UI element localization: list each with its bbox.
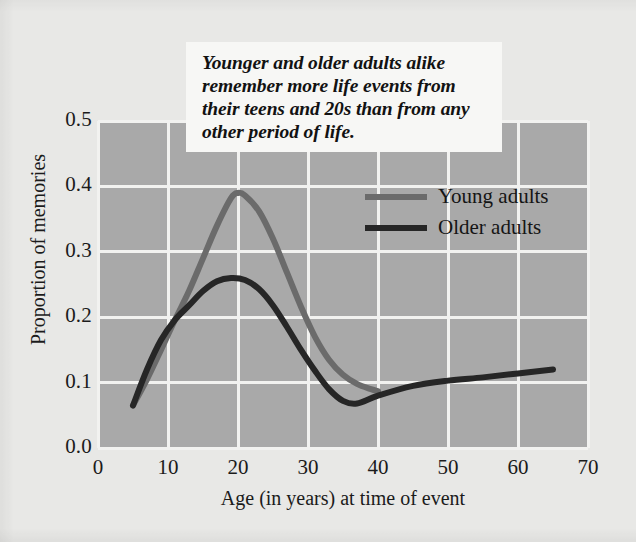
caption-text: Younger and older adults alike remember … xyxy=(202,51,488,143)
x-tick-label: 10 xyxy=(148,455,188,480)
x-axis-label: Age (in years) at time of event xyxy=(98,487,588,510)
x-tick-label: 40 xyxy=(358,455,398,480)
series-line-young-adults xyxy=(133,193,378,406)
chart-legend: Young adultsOlder adults xyxy=(365,181,565,243)
x-tick-label: 50 xyxy=(428,455,468,480)
x-tick-label: 20 xyxy=(218,455,258,480)
data-curves xyxy=(98,121,588,448)
legend-label: Young adults xyxy=(438,184,548,209)
x-tick-label: 70 xyxy=(568,455,608,480)
chart-figure: 0.00.10.20.30.40.5 Proportion of memorie… xyxy=(0,0,636,542)
legend-swatch-icon xyxy=(365,194,427,200)
legend-label: Older adults xyxy=(438,215,541,240)
legend-item[interactable]: Older adults xyxy=(365,212,565,243)
legend-item[interactable]: Young adults xyxy=(365,181,565,212)
x-tick-label: 30 xyxy=(288,455,328,480)
x-tick-label: 60 xyxy=(498,455,538,480)
legend-swatch-icon xyxy=(365,225,427,231)
plot-area xyxy=(98,121,588,448)
series-line-older-adults xyxy=(133,278,553,406)
x-tick-label: 0 xyxy=(78,455,118,480)
y-axis-label: Proportion of memories xyxy=(27,120,50,380)
caption-box: Younger and older adults alike remember … xyxy=(186,42,502,152)
